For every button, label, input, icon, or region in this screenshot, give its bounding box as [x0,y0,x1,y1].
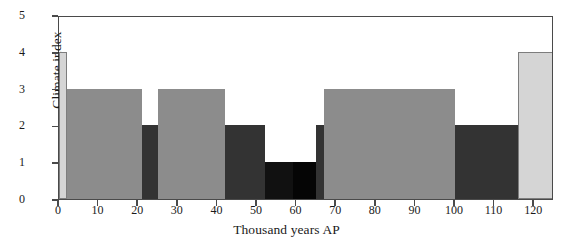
x-tick-label: 70 [315,203,355,218]
bar-segment [455,125,518,199]
y-tick-label: 3 [1,82,25,97]
x-tick-label: 80 [355,203,395,218]
bar-segment [316,125,324,199]
bar-segment [265,162,293,199]
x-tick-label: 50 [236,203,276,218]
bar-segment [293,162,317,199]
climate-index-chart: Climate index Thousand years AP 01234501… [0,0,573,252]
x-tick-label: 60 [276,203,316,218]
bar-segment [158,89,225,199]
x-tick-label: 100 [434,203,474,218]
x-axis-title: Thousand years AP [0,222,573,238]
y-tick-mark [52,162,58,164]
y-tick-label: 0 [1,192,25,207]
x-tick-label: 120 [513,203,553,218]
y-tick-label: 2 [1,118,25,133]
bar-segment [67,89,142,199]
x-tick-label: 40 [196,203,236,218]
x-tick-label: 110 [474,203,514,218]
x-tick-label: 10 [78,203,118,218]
bar-segment [518,52,553,199]
y-tick-label: 5 [1,8,25,23]
x-tick-label: 0 [38,203,78,218]
x-tick-label: 30 [157,203,197,218]
y-tick-mark [52,126,58,128]
bar-segment [225,125,265,199]
bar-segment [142,125,158,199]
y-tick-mark [52,89,58,91]
bar-segment [324,89,455,199]
bar-segment [59,52,67,199]
x-tick-label: 20 [117,203,157,218]
y-tick-mark [52,52,58,54]
x-tick-label: 90 [394,203,434,218]
y-tick-mark [52,15,58,17]
y-tick-label: 4 [1,45,25,60]
y-tick-label: 1 [1,155,25,170]
plot-area [58,16,553,200]
